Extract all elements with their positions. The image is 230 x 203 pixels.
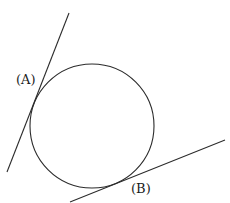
tangent-diagram: (A) (B) bbox=[0, 0, 230, 203]
label-b: (B) bbox=[131, 181, 151, 196]
tangent-line-a bbox=[7, 13, 69, 172]
label-a: (A) bbox=[16, 72, 36, 87]
circle bbox=[30, 64, 154, 188]
